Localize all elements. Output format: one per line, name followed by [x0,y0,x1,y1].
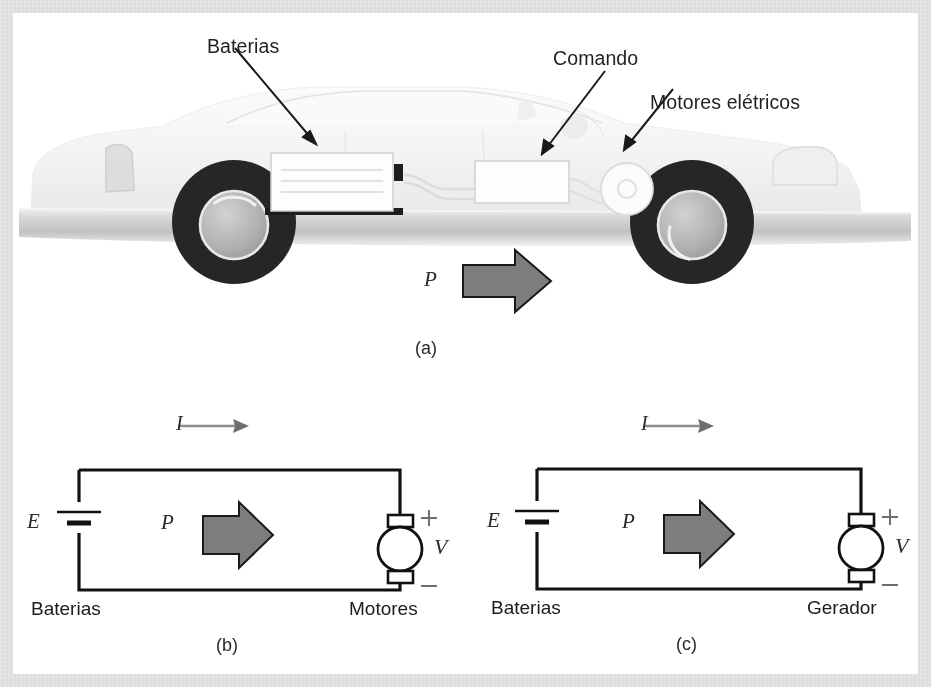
current-symbol-b: I [176,412,183,435]
power-symbol-a: P [424,267,437,292]
source-label-b: Baterias [31,598,101,620]
road-surface [19,209,911,246]
emf-symbol-b: E [27,509,40,534]
callout-label-comando: Comando [553,47,638,70]
power-arrow-c [664,501,734,567]
taillight [773,147,837,185]
battery-symbol-b [57,512,101,523]
controller-box [475,161,569,203]
figure-canvas: Baterias Comando Motores elétricos P (a) [13,13,918,674]
headlight [105,144,135,193]
current-arrow-c [643,419,714,433]
figure-electric-car-power: Baterias Comando Motores elétricos P (a) [0,0,931,687]
panel-caption-c: (c) [676,634,697,655]
power-symbol-b: P [161,510,174,535]
source-label-c: Baterias [491,597,561,619]
callout-label-baterias: Baterias [207,35,279,58]
panel-caption-a: (a) [415,338,437,359]
panel-a-illustration [13,13,918,383]
voltage-symbol-b: V [434,534,447,560]
generator-symbol-c [839,514,883,582]
emf-symbol-c: E [487,508,500,533]
battery-pack [271,153,403,211]
power-symbol-c: P [622,509,635,534]
battery-symbol-c [515,511,559,522]
current-arrow-b [178,419,249,433]
load-label-b: Motores [349,598,418,620]
panel-caption-b: (b) [216,635,238,656]
power-arrow-a [463,250,551,312]
motor-symbol-b [378,515,422,583]
electric-motor [601,163,653,215]
load-label-c: Gerador [807,597,877,619]
voltage-symbol-c: V [895,533,908,559]
callout-label-motores-eletricos: Motores elétricos [650,91,800,114]
power-arrow-b [203,502,273,568]
current-symbol-c: I [641,412,648,435]
